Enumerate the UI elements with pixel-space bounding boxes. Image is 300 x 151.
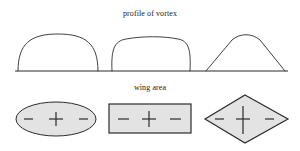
diamond-wing-profile-curve bbox=[206, 35, 285, 71]
rectangular-wing-profile-curve bbox=[112, 37, 190, 71]
vortex-wing-figure: profile of vortex wing area bbox=[0, 0, 300, 151]
diamond-wing bbox=[205, 95, 288, 143]
rectangular-wing bbox=[109, 104, 191, 133]
elliptical-wing bbox=[16, 102, 96, 136]
elliptical-wing-profile-curve bbox=[18, 34, 98, 71]
figure-canvas bbox=[0, 0, 300, 151]
